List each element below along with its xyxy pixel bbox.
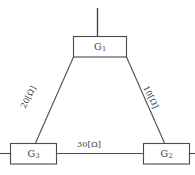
- edge-line-g1-g2: [127, 57, 165, 143]
- node-box-g1[interactable]: [74, 37, 127, 58]
- node-box-g3[interactable]: [11, 144, 57, 165]
- diagram-canvas: G1 G3 G2 20[Ω] 10[Ω] 30[Ω]: [0, 0, 195, 175]
- edge-line-g1-g3: [36, 57, 74, 143]
- edge-label-g3-g2: 30[Ω]: [77, 139, 101, 149]
- node-box-g2[interactable]: [144, 144, 190, 165]
